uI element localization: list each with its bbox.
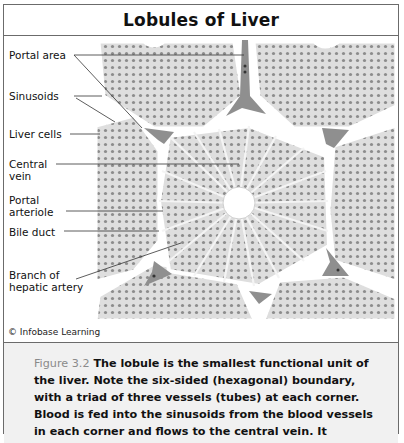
label-portal-arteriole-line2: arteriole — [9, 206, 53, 218]
label-portal-arteriole-line1: Portal — [9, 194, 39, 206]
liver-lobule-diagram: Portal area Sinusoids Liver cells Centra… — [4, 36, 398, 320]
label-hepatic-artery-line2: hepatic artery — [9, 281, 83, 293]
label-hepatic-artery-line1: Branch of — [9, 269, 60, 281]
figure-frame: Lobules of Liver — [3, 4, 399, 434]
title-bar: Lobules of Liver — [4, 5, 398, 36]
label-sinusoids: Sinusoids — [9, 90, 59, 102]
figure-caption: Figure 3.2 The lobule is the smallest fu… — [34, 355, 379, 440]
caption-box: Figure 3.2 The lobule is the smallest fu… — [4, 342, 398, 443]
label-liver-cells: Liver cells — [9, 128, 62, 140]
label-central-vein-line1: Central — [9, 158, 47, 170]
figure-title: Lobules of Liver — [123, 10, 279, 30]
figure-number: Figure 3.2 — [34, 357, 90, 370]
lobule-illustration — [4, 36, 400, 320]
label-bile-duct: Bile duct — [9, 226, 55, 238]
label-central-vein-line2: vein — [9, 170, 31, 182]
label-portal-area: Portal area — [9, 49, 66, 61]
image-credit: © Infobase Learning — [8, 327, 100, 337]
